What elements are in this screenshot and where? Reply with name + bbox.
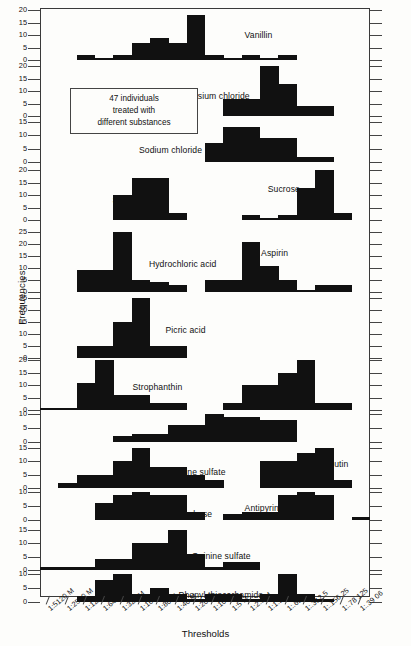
bar	[352, 517, 371, 520]
y-tick-right	[370, 220, 382, 221]
panel-quinine-sulfate: 051015Quinine sulfate	[40, 530, 370, 570]
y-axis-ticks: 051015	[0, 530, 40, 570]
bar	[223, 127, 242, 162]
bar	[242, 385, 261, 410]
y-tick-label: 15	[19, 369, 27, 376]
y-tick-label: 15	[19, 444, 27, 451]
y-tick-right	[370, 135, 382, 136]
y-tick	[28, 195, 40, 196]
y-tick-label: 5	[23, 342, 27, 349]
y-tick-label: 20	[19, 6, 27, 13]
bar	[95, 559, 114, 570]
y-tick-label: 5	[23, 424, 27, 431]
y-tick	[28, 232, 40, 233]
bar	[297, 157, 316, 162]
y-tick-label: 5	[23, 276, 27, 283]
y-tick-label: 20	[19, 356, 27, 363]
y-tick-right	[370, 414, 382, 415]
y-tick-right	[370, 461, 382, 462]
y-tick-label: 10	[19, 191, 27, 198]
bar	[278, 280, 297, 292]
y-tick-label: 10	[19, 87, 27, 94]
bar	[297, 290, 316, 292]
y-tick-right	[370, 360, 382, 361]
bars	[40, 10, 370, 60]
bar	[77, 346, 96, 358]
y-tick	[28, 116, 40, 117]
y-tick	[28, 461, 40, 462]
bar	[113, 461, 132, 488]
y-tick-label: 5	[23, 471, 27, 478]
bar	[168, 43, 187, 61]
y-tick-right	[370, 79, 382, 80]
y-axis-ticks-right	[370, 492, 410, 520]
y-tick-right	[370, 60, 382, 61]
bar	[58, 408, 77, 411]
y-axis-ticks-right	[370, 448, 410, 488]
y-tick	[28, 183, 40, 184]
bar	[95, 475, 114, 488]
y-tick-right	[370, 488, 382, 489]
y-tick	[28, 122, 40, 123]
y-tick-label: 5	[23, 584, 27, 591]
y-tick-right	[370, 122, 382, 123]
bar	[315, 495, 334, 520]
y-tick	[28, 280, 40, 281]
bar	[260, 58, 279, 61]
y-tick-right	[370, 104, 382, 105]
bar	[95, 346, 114, 358]
bar	[260, 218, 279, 221]
y-tick-label: 15	[19, 252, 27, 259]
bar	[260, 138, 279, 162]
bar	[77, 55, 96, 60]
bar	[113, 232, 132, 292]
bar	[278, 84, 297, 117]
y-tick-right	[370, 492, 382, 493]
y-tick-label: 10	[19, 410, 27, 417]
bar	[113, 495, 132, 520]
y-tick-label: 25	[19, 228, 27, 235]
bar	[205, 143, 224, 162]
panel-label: Picric acid	[165, 325, 205, 335]
y-tick	[28, 492, 40, 493]
y-tick	[28, 149, 40, 150]
bar	[223, 514, 242, 520]
y-tick-label: 10	[19, 132, 27, 139]
y-tick-right	[370, 506, 382, 507]
y-tick-label: 10	[19, 488, 27, 495]
y-tick	[28, 292, 40, 293]
annotation-line-2: different substances	[73, 117, 195, 129]
y-tick-label: 15	[19, 318, 27, 325]
y-tick	[28, 442, 40, 443]
bar	[315, 403, 334, 411]
y-tick-label: 15	[19, 179, 27, 186]
bar	[205, 55, 224, 60]
panel-picric-acid: 0510152025Picric acid	[40, 298, 370, 358]
panel-cascara: 0510Cascara	[40, 414, 370, 442]
bar	[187, 425, 206, 442]
panel-label: Cascara	[218, 433, 251, 443]
y-axis-ticks-right	[370, 10, 410, 60]
bar	[242, 242, 261, 292]
y-tick	[28, 244, 40, 245]
y-axis-ticks-right	[370, 360, 410, 410]
y-tick-right	[370, 292, 382, 293]
y-tick	[28, 410, 40, 411]
bar	[260, 66, 279, 116]
y-tick-label: 5	[23, 394, 27, 401]
y-tick-right	[370, 66, 382, 67]
bar	[278, 215, 297, 220]
bar	[113, 55, 132, 60]
y-tick	[28, 310, 40, 311]
panel-label-secondary: Esculin	[268, 394, 296, 404]
bar	[95, 503, 114, 520]
bar	[242, 512, 261, 520]
bar	[333, 480, 352, 488]
y-tick-right	[370, 570, 382, 571]
y-tick-right	[370, 23, 382, 24]
y-tick-right	[370, 543, 382, 544]
y-tick	[28, 208, 40, 209]
bar	[297, 453, 316, 488]
y-tick-right	[370, 574, 382, 575]
y-tick-right	[370, 373, 382, 374]
